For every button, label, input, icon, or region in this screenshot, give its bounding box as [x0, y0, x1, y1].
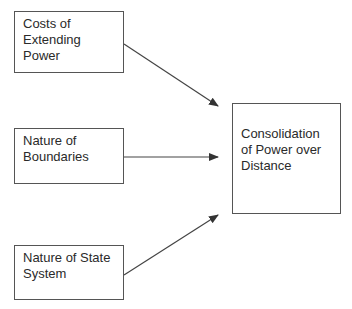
- box-label: Nature of State System: [23, 250, 115, 282]
- box-costs-of-extending-power: Costs of Extending Power: [14, 11, 124, 73]
- box-label: Consolidation of Power over Distance: [241, 126, 332, 174]
- box-consolidation-of-power: Consolidation of Power over Distance: [232, 103, 341, 214]
- box-nature-of-boundaries: Nature of Boundaries: [14, 128, 124, 184]
- arrow-statesystem-to-consolidation: [124, 215, 218, 275]
- box-label: Costs of Extending Power: [23, 16, 115, 64]
- box-nature-of-state-system: Nature of State System: [14, 245, 124, 300]
- arrow-costs-to-consolidation: [124, 44, 218, 106]
- box-label: Nature of Boundaries: [23, 133, 115, 165]
